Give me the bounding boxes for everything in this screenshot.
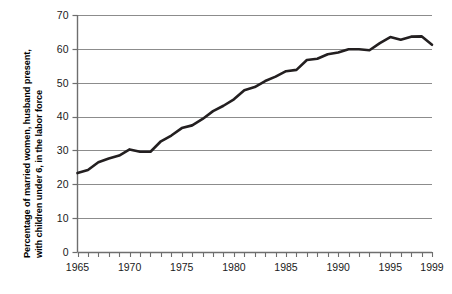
x-tick-label: 1990: [326, 261, 350, 273]
y-tick-label: 30: [57, 144, 69, 156]
x-tick-label: 1965: [66, 261, 90, 273]
x-tick-label: 1970: [118, 261, 142, 273]
y-axis-label-line-2: with children under 6, in the labor forc…: [34, 90, 46, 258]
x-tick-label: 1975: [170, 261, 194, 273]
x-tick-labels: 19651970197519801985199019951999: [66, 261, 444, 273]
chart-figure: Percentage of married women, husband pre…: [0, 0, 452, 294]
y-tick-label: 20: [57, 178, 69, 190]
y-tick-label: 50: [57, 77, 69, 89]
y-tick-marks: [73, 16, 78, 253]
y-axis-label: Percentage of married women, husband pre…: [0, 0, 52, 270]
y-tick-label: 70: [57, 9, 69, 21]
y-tick-label: 10: [57, 212, 69, 224]
data-line-series: [78, 36, 433, 173]
y-axis-label-line-1: Percentage of married women, husband pre…: [22, 49, 34, 258]
x-tick-label: 1999: [420, 261, 444, 273]
y-tick-label: 40: [57, 110, 69, 122]
y-tick-label: 60: [57, 43, 69, 55]
gridlines: [78, 16, 433, 219]
x-tick-label: 1995: [379, 261, 403, 273]
y-tick-label: 0: [63, 246, 69, 258]
y-tick-labels: 010203040506070: [57, 9, 69, 258]
chart-plot-area: 010203040506070 196519701975198019851990…: [0, 0, 452, 294]
x-tick-label: 1985: [274, 261, 298, 273]
x-tick-label: 1980: [222, 261, 246, 273]
